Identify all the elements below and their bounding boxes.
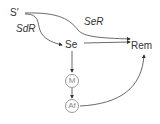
edge-se-rem (84, 42, 130, 43)
node-s-prime: S′ (10, 8, 19, 18)
edge-label-ser: SeR (84, 17, 103, 27)
node-af: Af (65, 99, 79, 113)
node-se: Se (65, 40, 77, 50)
node-m: M (65, 74, 79, 88)
diagram-edges (0, 0, 160, 124)
edge-af-rem (80, 55, 144, 106)
node-rem: Rem (131, 41, 152, 51)
edge-label-sdr: SdR (16, 24, 35, 34)
edge-sprime-rem (25, 13, 130, 39)
